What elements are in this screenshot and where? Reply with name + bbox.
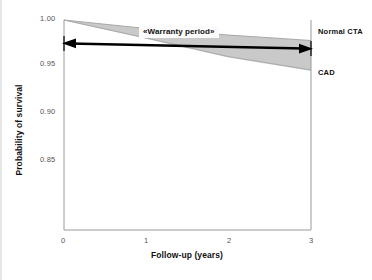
x-axis-tick-label: 0 xyxy=(61,236,65,245)
y-axis-tick-label: 0.95 xyxy=(40,59,55,68)
x-axis-tick-label: 1 xyxy=(144,236,148,245)
survival-chart-figure: 1.00 0.95 0.90 0.85 0 1 2 3 Probability … xyxy=(0,0,372,280)
x-axis-tick-label: 3 xyxy=(309,236,313,245)
y-axis-tick-label: 0.90 xyxy=(40,107,55,116)
y-axis-tick-label: 0.85 xyxy=(40,155,55,164)
y-axis-title: Probability of survival xyxy=(14,70,24,190)
curve-label-cad: CAD xyxy=(318,68,335,77)
y-axis-tick-label: 1.00 xyxy=(40,14,55,23)
x-axis-tick-label: 2 xyxy=(227,236,231,245)
warranty-period-label: «Warranty period» xyxy=(139,26,219,38)
x-axis-title: Follow-up (years) xyxy=(63,250,311,260)
plot-canvas xyxy=(0,0,372,280)
curve-label-normal-cta: Normal CTA xyxy=(318,27,363,36)
